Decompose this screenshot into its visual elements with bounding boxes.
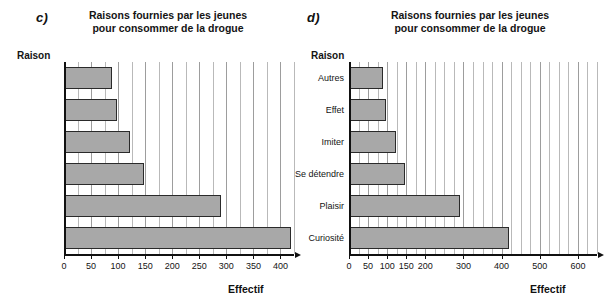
x-axis-tick-label: 600 bbox=[570, 261, 585, 271]
x-axis-tick bbox=[502, 255, 503, 259]
bar-curiosité bbox=[64, 227, 291, 248]
panel-c: c) Raisons fournies par les jeunes pour … bbox=[0, 0, 301, 301]
x-axis-tick bbox=[540, 255, 541, 259]
gridline bbox=[511, 62, 512, 254]
gridline bbox=[226, 62, 227, 254]
gridline bbox=[253, 62, 254, 254]
gridline bbox=[502, 62, 503, 254]
x-axis-tick-label: 150 bbox=[138, 261, 153, 271]
bar-autres bbox=[349, 67, 383, 88]
gridline bbox=[521, 62, 522, 254]
gridline bbox=[463, 62, 464, 254]
gridline bbox=[213, 62, 214, 254]
x-axis-tick-label: 400 bbox=[273, 261, 288, 271]
x-axis-tick bbox=[226, 255, 227, 259]
gridline bbox=[186, 62, 187, 254]
gridline bbox=[578, 62, 579, 254]
bar-imiter bbox=[64, 131, 130, 152]
x-axis-line bbox=[64, 254, 294, 256]
bar-effet bbox=[64, 99, 117, 120]
gridline bbox=[549, 62, 550, 254]
x-axis-tick-label: 100 bbox=[380, 261, 395, 271]
x-axis-tick-label: 150 bbox=[399, 261, 414, 271]
gridline bbox=[294, 62, 295, 254]
gridline bbox=[540, 62, 541, 254]
gridline bbox=[597, 62, 598, 254]
gridline bbox=[132, 62, 133, 254]
panel-c-title: Raisons fournies par les jeunes pour con… bbox=[68, 9, 268, 35]
x-axis-tick-label: 0 bbox=[346, 261, 351, 271]
x-axis-arrow-icon bbox=[598, 252, 604, 258]
x-axis-arrow-icon bbox=[295, 252, 301, 258]
category-label: Curiosité bbox=[308, 233, 344, 243]
x-axis-tick-label: 500 bbox=[532, 261, 547, 271]
x-axis-tick-label: 50 bbox=[86, 261, 96, 271]
panel-d-x-axis-title: Effectif bbox=[530, 283, 566, 295]
x-axis-tick bbox=[463, 255, 464, 259]
gridline bbox=[387, 62, 388, 254]
bar-effet bbox=[349, 99, 386, 120]
gridline bbox=[483, 62, 484, 254]
gridline bbox=[267, 62, 268, 254]
x-axis-tick-label: 200 bbox=[418, 261, 433, 271]
category-label: Imiter bbox=[322, 137, 345, 147]
plot-background bbox=[64, 62, 294, 254]
panel-c-y-axis-title: Raison bbox=[17, 50, 50, 61]
category-label: Plaisir bbox=[319, 201, 344, 211]
gridline bbox=[568, 62, 569, 254]
x-axis-tick-label: 100 bbox=[111, 261, 126, 271]
panel-d-title: Raisons fournies par les jeunes pour con… bbox=[370, 9, 570, 35]
x-axis-tick bbox=[280, 255, 281, 259]
bar-autres bbox=[64, 67, 112, 88]
gridline bbox=[240, 62, 241, 254]
category-label: Se détendre bbox=[295, 169, 344, 179]
x-axis-tick bbox=[253, 255, 254, 259]
gridline bbox=[359, 62, 360, 254]
x-axis-tick bbox=[349, 255, 350, 259]
x-axis-tick bbox=[199, 255, 200, 259]
gridline bbox=[425, 62, 426, 254]
gridline bbox=[530, 62, 531, 254]
gridline bbox=[199, 62, 200, 254]
gridline bbox=[368, 62, 369, 254]
x-axis-tick bbox=[118, 255, 119, 259]
x-axis-tick bbox=[368, 255, 369, 259]
x-axis-tick-label: 0 bbox=[61, 261, 66, 271]
x-axis-tick bbox=[578, 255, 579, 259]
x-axis-tick-label: 300 bbox=[456, 261, 471, 271]
panel-c-x-axis-title: Effectif bbox=[228, 283, 264, 295]
category-label: Autres bbox=[318, 73, 344, 83]
gridline bbox=[78, 62, 79, 254]
gridline bbox=[454, 62, 455, 254]
bar-curiosité bbox=[349, 227, 509, 248]
gridline bbox=[280, 62, 281, 254]
gridline bbox=[406, 62, 407, 254]
bar-plaisir bbox=[349, 195, 460, 216]
x-axis-tick bbox=[425, 255, 426, 259]
x-axis-tick bbox=[145, 255, 146, 259]
gridline bbox=[172, 62, 173, 254]
panel-d: d) Raisons fournies par les jeunes pour … bbox=[302, 0, 603, 301]
x-axis-tick bbox=[64, 255, 65, 259]
gridline bbox=[159, 62, 160, 254]
panel-d-tag: d) bbox=[307, 10, 320, 25]
gridline bbox=[444, 62, 445, 254]
x-axis-tick bbox=[172, 255, 173, 259]
panel-d-plot-area: AutresEffetImiterSe détendrePlaisirCurio… bbox=[349, 62, 597, 254]
x-axis-tick-label: 350 bbox=[246, 261, 261, 271]
gridline bbox=[91, 62, 92, 254]
category-label: Effet bbox=[326, 105, 344, 115]
x-axis-tick bbox=[387, 255, 388, 259]
panel-c-tag: c) bbox=[36, 10, 48, 25]
bar-se-détendre bbox=[349, 163, 405, 184]
gridline bbox=[587, 62, 588, 254]
panel-d-y-axis-title: Raison bbox=[311, 50, 344, 61]
gridline bbox=[492, 62, 493, 254]
panel-c-plot-area: 050100150200250300350400 bbox=[64, 62, 294, 254]
gridline bbox=[118, 62, 119, 254]
x-axis-tick bbox=[91, 255, 92, 259]
gridline bbox=[416, 62, 417, 254]
x-axis-tick-label: 400 bbox=[494, 261, 509, 271]
gridline bbox=[559, 62, 560, 254]
x-axis-tick-label: 300 bbox=[219, 261, 234, 271]
